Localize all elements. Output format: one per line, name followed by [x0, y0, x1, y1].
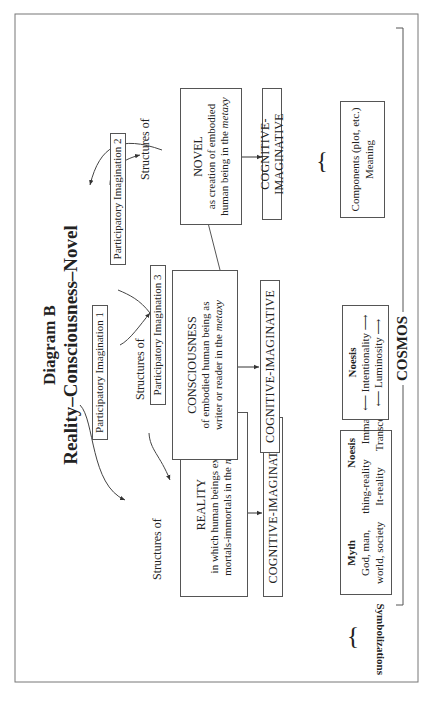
- symbolizations-label-text: Symbolizations: [375, 603, 387, 675]
- rotated-diagram-page: Diagram B Reality–Consciousness–Novel Pa…: [0, 0, 436, 705]
- novel-brace: }: [316, 152, 328, 176]
- symbol-cell: It-reality: [373, 455, 387, 517]
- novel-line1: as creation of embodied: [205, 104, 218, 209]
- meaning-label: Meaning: [363, 140, 376, 179]
- cognitive-imaginative-novel: COGNITIVE-IMAGINATIVE: [262, 88, 282, 220]
- cognitive-imaginative-consciousness: COGNITIVE-IMAGINATIVE: [260, 280, 280, 453]
- novel-title: NOVEL: [191, 136, 205, 177]
- participatory-imagination-2: Participatory Imagination 2: [110, 133, 126, 265]
- novel-line2: human being in the metaxy: [218, 97, 231, 216]
- consciousness-line1: of embodied human being as: [199, 301, 212, 428]
- novel-box: NOVEL as creation of embodied human bein…: [180, 88, 242, 225]
- components-label: Components (plot, etc.): [349, 108, 362, 212]
- novel-symbolizations-box: Components (plot, etc.) Meaning: [340, 101, 385, 218]
- luminosity-row: ⟵ Luminosity ⟶: [372, 319, 385, 407]
- participatory-imagination-1-label: Participatory Imagination 1: [93, 312, 106, 433]
- diagram-label: Diagram B: [40, 265, 60, 425]
- symbol-cell: God, man,: [359, 518, 373, 588]
- consciousness-title: CONSCIOUSNESS: [185, 316, 199, 413]
- participatory-imagination-2-label: Participatory Imagination 2: [111, 139, 124, 260]
- structures-of-consciousness: Structures of: [133, 338, 148, 400]
- structures-of-novel: Structures of: [138, 118, 153, 180]
- myth-header: Myth: [345, 518, 359, 588]
- structures-of-reality: Structures of: [150, 518, 165, 580]
- participatory-imagination-3-label: Participatory Imagination 3: [151, 275, 164, 396]
- reality-symbolizations-box: Myth Noesis God, man, thing-reality Imma…: [340, 430, 392, 595]
- cognitive-label: COGNITIVE-IMAGINATIVE: [266, 431, 280, 584]
- reality-title: REALITY: [194, 479, 208, 530]
- noesis-header: Noesis: [346, 348, 359, 378]
- symbol-cell: world, society: [373, 518, 387, 588]
- symbol-cell: thing-reality: [359, 455, 373, 517]
- diagram-subtitle: Reality–Consciousness–Novel: [60, 175, 82, 515]
- cognitive-label: COGNITIVE-IMAGINATIVE: [263, 290, 277, 443]
- participatory-imagination-3: Participatory Imagination 3: [150, 265, 166, 405]
- cognitive-label: COGNITIVE-IMAGINATIVE: [258, 89, 287, 219]
- consciousness-symbolizations-box: Noesis ⟵ Intentionality ⟶ ⟵ Luminosity ⟶: [342, 305, 389, 420]
- symbolizations-brace: }: [347, 626, 359, 652]
- consciousness-line2: writer or reader in the metaxy: [212, 300, 225, 430]
- intentionality-row: ⟵ Intentionality ⟶: [359, 314, 372, 410]
- consciousness-box: CONSCIOUSNESS of embodied human being as…: [172, 270, 238, 460]
- cosmos-label: COSMOS: [394, 312, 411, 385]
- participatory-imagination-1: Participatory Imagination 1: [92, 305, 108, 440]
